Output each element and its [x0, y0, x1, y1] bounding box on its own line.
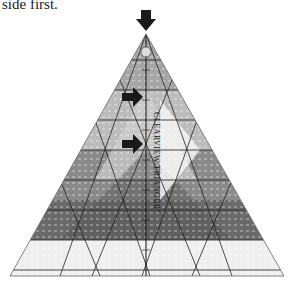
triangle-ruler: CLEARVIEW TRIANGLE 10" [0, 0, 293, 284]
size-label: 10" [152, 200, 161, 213]
arrow-down-icon [136, 10, 156, 31]
brand-label: CLEARVIEW TRIANGLE [152, 112, 161, 209]
